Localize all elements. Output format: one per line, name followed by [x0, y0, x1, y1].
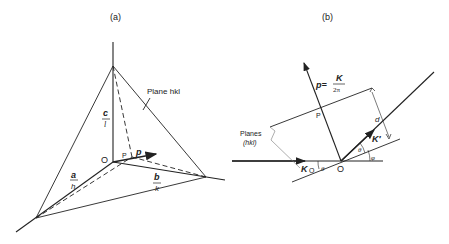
d-spacing-label: d	[375, 115, 380, 124]
theta-arc-lower	[318, 161, 319, 169]
origin-o-label: O	[101, 155, 108, 165]
plane-hkl-label: Plane hkl	[147, 87, 180, 96]
plane-edge-ab	[36, 177, 206, 218]
vector-c-denominator: l	[104, 120, 107, 129]
theta-upper-label: θ	[358, 146, 362, 154]
vector-a-denominator: h	[71, 182, 76, 191]
p-vector-arrow	[113, 154, 156, 162]
dashed-c-p	[113, 66, 132, 157]
planes-label: Planes	[240, 130, 262, 137]
point-p-label-b: P	[316, 112, 321, 119]
p-numerator-k: K	[336, 73, 344, 83]
point-p-label: P	[122, 152, 127, 159]
k0-subscript: O	[309, 167, 315, 174]
plane-leader-line	[143, 98, 150, 110]
k-prime-label: K′	[372, 134, 381, 144]
caption-a: (a)	[110, 12, 121, 22]
caption-b: (b)	[322, 12, 333, 22]
vector-a-label: a	[71, 170, 76, 180]
panel-b-labels: (b) p= K 2π P Planes (hkl) d K′ K O θ θ …	[240, 12, 381, 174]
b-axis	[113, 162, 225, 180]
plane-edge-ca	[36, 66, 113, 218]
vector-b-label: b	[154, 172, 160, 182]
p-denominator-2pi: 2π	[333, 86, 341, 94]
panel-b	[232, 63, 434, 182]
origin-o-label-b: O	[337, 164, 344, 174]
a-axis	[16, 162, 113, 232]
planes-leader-line	[270, 127, 300, 168]
k0-label: K	[301, 164, 309, 174]
diffraction-diagram: (a) Plane hkl c l a h b k O P p	[0, 0, 449, 244]
planes-hkl-label: (hkl)	[243, 139, 257, 147]
plane-upper	[270, 88, 372, 127]
panel-a	[16, 42, 225, 232]
dashed-a-p	[36, 157, 132, 218]
theta-lower-label: θ	[321, 165, 325, 173]
p-equation-label: p=	[315, 80, 327, 90]
vector-p-label: p	[135, 147, 142, 157]
vector-c-label: c	[103, 108, 108, 118]
phi-label: φ	[371, 154, 375, 162]
